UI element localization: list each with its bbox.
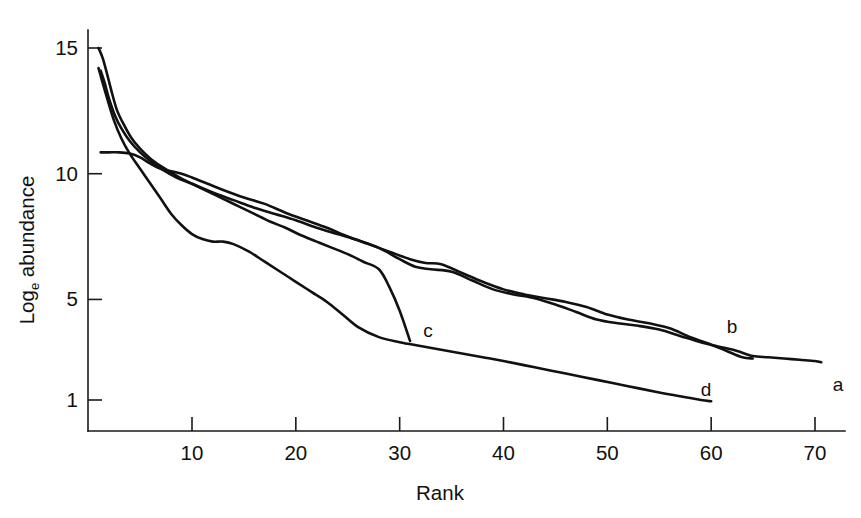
x-tick-label: 40	[492, 441, 515, 464]
series-label-a: a	[833, 374, 844, 395]
x-tick-label: 70	[804, 441, 827, 464]
series-curve-d	[99, 68, 712, 401]
rank-abundance-chart: 151015 10203040506070 abcd Rank Loge abu…	[0, 0, 861, 518]
x-tick-label: 10	[181, 441, 204, 464]
svg-text:Loge abundance: Loge abundance	[15, 176, 42, 325]
x-tick-label: 30	[388, 441, 411, 464]
series-label-d: d	[701, 379, 712, 400]
x-tick-label: 20	[284, 441, 307, 464]
x-tick-label: 50	[596, 441, 619, 464]
y-tick-label: 10	[55, 162, 78, 185]
data-series-group	[99, 48, 822, 401]
series-curve-c	[99, 48, 411, 341]
y-axis-title-rest: abundance	[15, 176, 38, 283]
y-tick-label: 1	[67, 388, 78, 411]
y-axis-ticks: 151015	[55, 36, 102, 411]
y-tick-label: 15	[55, 36, 78, 59]
x-axis-title: Rank	[416, 481, 465, 504]
series-label-c: c	[423, 320, 433, 341]
axes-group	[88, 30, 845, 431]
y-axis-title-base: Log	[15, 290, 38, 324]
y-axis-title-subscript: e	[27, 283, 42, 290]
chart-canvas: 151015 10203040506070 abcd Rank Loge abu…	[0, 0, 861, 518]
x-tick-label: 60	[700, 441, 723, 464]
series-curve-a	[101, 71, 822, 363]
series-label-b: b	[727, 316, 738, 337]
y-axis-title: Loge abundance	[15, 176, 42, 325]
x-axis-ticks: 10203040506070	[181, 417, 827, 464]
y-tick-label: 5	[67, 287, 78, 310]
